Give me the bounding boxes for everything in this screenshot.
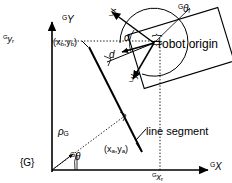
robot-origin-label: robot origin bbox=[158, 38, 218, 50]
global-xr-subscript: r bbox=[161, 175, 163, 182]
local-x-axis-arrow bbox=[112, 12, 154, 43]
figure-canvas: GY GX Gyr Gxr {G} {L} robot origin Lx Ly… bbox=[0, 0, 232, 183]
global-yr-subscript: r bbox=[12, 37, 14, 44]
line-segment-callout bbox=[136, 129, 146, 140]
diagram-vector-layer bbox=[0, 0, 232, 183]
bearing-angle-label: α bbox=[124, 33, 130, 43]
local-x-letter: x bbox=[108, 8, 118, 13]
perpendicular-distance-label: d bbox=[109, 50, 115, 60]
endpoint-b-callout bbox=[82, 41, 88, 47]
endpoint-b-label: (xb,yb) bbox=[53, 38, 77, 47]
global-y-axis-letter: Y bbox=[67, 14, 74, 25]
local-x-axis-label: Lx bbox=[108, 8, 118, 16]
rho-label: ρG bbox=[58, 127, 69, 138]
local-y-superscript: L bbox=[127, 79, 134, 82]
local-x-superscript: L bbox=[107, 13, 114, 16]
rho-symbol: ρ bbox=[58, 126, 64, 137]
global-x-axis-letter: X bbox=[215, 161, 222, 172]
endpoint-a-comma: ,y bbox=[115, 144, 122, 154]
global-theta-symbol: θ bbox=[75, 151, 80, 162]
line-segment-path bbox=[89, 47, 142, 152]
endpoint-a-close: ) bbox=[125, 144, 128, 154]
endpoint-a-label: (xa,ya) bbox=[104, 145, 128, 154]
local-y-axis-label: Ly bbox=[128, 74, 138, 82]
global-xr-tick-label: Gxr bbox=[152, 172, 163, 182]
rho-subscript: G bbox=[64, 130, 69, 137]
global-y-axis-label: GY bbox=[62, 15, 74, 25]
local-y-letter: y bbox=[128, 74, 138, 79]
heading-angle-label: Gθr bbox=[178, 4, 191, 15]
endpoint-b-close: ) bbox=[74, 37, 77, 47]
heading-angle-subscript: r bbox=[188, 7, 190, 14]
endpoint-b-comma: ,y bbox=[64, 37, 71, 47]
global-theta-label: Gθ bbox=[70, 152, 80, 162]
line-segment-label: line segment bbox=[146, 126, 208, 137]
global-frame-label: {G} bbox=[20, 158, 34, 168]
polar-parameters-group bbox=[52, 112, 126, 170]
global-yr-tick-label: Gyr bbox=[3, 34, 14, 44]
global-x-axis-label: GX bbox=[210, 162, 222, 172]
